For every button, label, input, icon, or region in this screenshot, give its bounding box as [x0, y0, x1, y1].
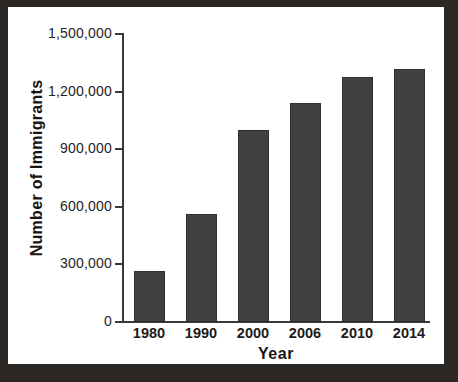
y-tick-label-900000-wrap: 900,000 — [8, 140, 112, 156]
y-tick-label-300000: 300,000 — [12, 255, 112, 271]
bar-chart-plot-area: 0 300,000 600,000 900,000 1,200,000 1,50… — [8, 7, 444, 364]
x-axis-line — [122, 321, 430, 323]
y-tick-label-1200000: 1,200,000 — [12, 83, 112, 99]
y-axis-title: Number of Immigrants — [28, 43, 46, 293]
x-tick-label-2014: 2014 — [374, 325, 444, 341]
y-tick-mark-900000 — [115, 148, 123, 150]
bar-1990[interactable] — [186, 214, 217, 322]
figure-root: 0 300,000 600,000 900,000 1,200,000 1,50… — [0, 0, 458, 382]
y-tick-label-1200000-wrap: 1,200,000 — [8, 83, 112, 99]
y-tick-label-1500000-wrap: 1,500,000 — [8, 25, 112, 41]
y-tick-label-600000: 600,000 — [12, 198, 112, 214]
y-tick-mark-1500000 — [115, 33, 123, 35]
chart-card: 0 300,000 600,000 900,000 1,200,000 1,50… — [8, 7, 444, 364]
y-tick-label-0-wrap: 0 — [8, 313, 112, 329]
y-tick-mark-0 — [115, 321, 123, 323]
y-tick-mark-1200000 — [115, 91, 123, 93]
y-tick-label-1500000: 1,500,000 — [12, 25, 112, 41]
y-tick-label-300000-wrap: 300,000 — [8, 255, 112, 271]
bar-2006[interactable] — [290, 103, 321, 322]
bar-2014[interactable] — [394, 69, 425, 322]
y-axis-line — [122, 33, 124, 323]
bar-2010[interactable] — [342, 77, 373, 322]
y-tick-mark-300000 — [115, 263, 123, 265]
bar-1980[interactable] — [134, 271, 165, 322]
y-tick-mark-600000 — [115, 206, 123, 208]
y-tick-label-900000: 900,000 — [12, 140, 112, 156]
x-axis-title: Year — [122, 345, 430, 363]
bar-2000[interactable] — [238, 130, 269, 322]
y-tick-label-600000-wrap: 600,000 — [8, 198, 112, 214]
y-tick-label-0: 0 — [12, 313, 112, 329]
